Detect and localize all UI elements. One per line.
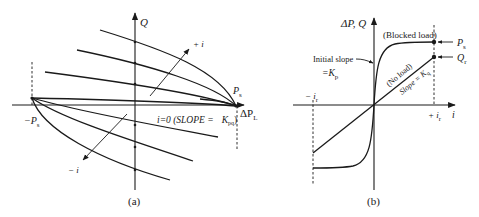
initial-slope-pointer [356,59,373,63]
panel-a-caption: (a) [128,195,141,208]
panel-b-current-characteristics: ΔP, Q (Blocked load) Ps Qr Initial slope… [293,17,467,208]
dp-q-axis-label: ΔP, Q [340,17,366,29]
panel-a-pressure-flow-curves: Q + i − i Ps −Ps ΔPL i=0 (SLOPE =Kpq) (a… [12,13,257,208]
ps-point [432,40,436,44]
neg-ps-label: −Ps [24,115,40,129]
ps-label-b: Ps [456,37,466,51]
zero-current-slope-label: i=0 (SLOPE =Kpq) [157,115,237,126]
plus-i-label: + i [193,39,204,49]
i-axis-label: i [452,109,455,120]
initial-slope-label: Initial slope [313,54,354,64]
ps-label: Ps [232,85,242,99]
panel-b-caption: (b) [367,195,380,208]
delta-pl-label: ΔPL [240,107,257,122]
pos-ir-label: + ir [428,110,442,122]
initial-slope-kp: =Kp [322,68,339,81]
minus-i-label: − i [68,165,79,175]
qr-label: Qr [457,52,467,66]
qr-point [432,55,436,59]
neg-ir-label: − ir [305,91,319,103]
valve-characteristics-figure: Q + i − i Ps −Ps ΔPL i=0 (SLOPE =Kpq) (a… [0,0,479,217]
blocked-load-curve-negative [313,105,374,168]
increasing-current-arrow [150,49,189,96]
q-axis-label: Q [140,16,148,28]
flow-curve-pos-3 [100,30,236,106]
blocked-load-label: (Blocked load) [383,30,437,40]
